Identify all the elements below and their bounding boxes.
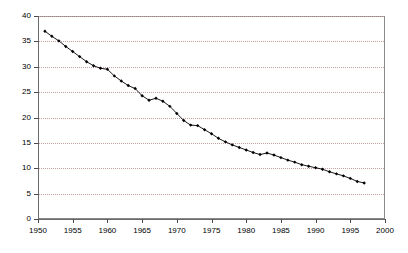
- x-tick-label: 1970: [168, 227, 186, 235]
- x-tick-label: 1975: [203, 227, 221, 235]
- x-tick-mark: [281, 219, 282, 223]
- x-tick-label: 1955: [64, 227, 82, 235]
- y-tick-label: 30: [0, 63, 31, 71]
- x-tick-mark: [350, 219, 351, 223]
- y-tick-label: 35: [0, 37, 31, 45]
- y-tick-mark: [34, 168, 38, 169]
- gridline: [39, 168, 384, 169]
- x-tick-mark: [246, 219, 247, 223]
- gridline: [39, 143, 384, 144]
- x-tick-label: 1995: [341, 227, 359, 235]
- x-tick-label: 2000: [376, 227, 394, 235]
- x-tick-label: 1985: [272, 227, 290, 235]
- x-tick-label: 1950: [29, 227, 47, 235]
- x-tick-label: 1960: [98, 227, 116, 235]
- gridline: [39, 194, 384, 195]
- x-tick-label: 1980: [237, 227, 255, 235]
- x-tick-mark: [73, 219, 74, 223]
- y-tick-mark: [34, 118, 38, 119]
- gridline: [39, 118, 384, 119]
- x-tick-mark: [38, 219, 39, 223]
- gridline: [39, 92, 384, 93]
- x-tick-label: 1990: [307, 227, 325, 235]
- x-tick-label: 1965: [133, 227, 151, 235]
- x-tick-mark: [316, 219, 317, 223]
- y-tick-label: 20: [0, 114, 31, 122]
- y-tick-label: 25: [0, 88, 31, 96]
- y-tick-label: 40: [0, 12, 31, 20]
- y-tick-label: 5: [0, 190, 31, 198]
- y-tick-label: 10: [0, 164, 31, 172]
- gridline: [39, 41, 384, 42]
- x-tick-mark: [385, 219, 386, 223]
- x-tick-mark: [107, 219, 108, 223]
- y-tick-mark: [34, 92, 38, 93]
- y-tick-label: 0: [0, 215, 31, 223]
- y-tick-label: 15: [0, 139, 31, 147]
- y-tick-mark: [34, 41, 38, 42]
- x-tick-mark: [142, 219, 143, 223]
- x-tick-mark: [212, 219, 213, 223]
- gridline: [39, 67, 384, 68]
- gridline: [39, 16, 384, 17]
- y-tick-mark: [34, 194, 38, 195]
- y-tick-mark: [34, 143, 38, 144]
- line-chart: 0510152025303540 19501955196019651970197…: [0, 0, 408, 253]
- y-tick-mark: [34, 16, 38, 17]
- x-tick-mark: [177, 219, 178, 223]
- y-tick-mark: [34, 67, 38, 68]
